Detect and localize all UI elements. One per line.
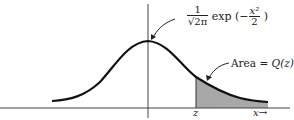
formula-numerator: 1 — [193, 5, 201, 15]
formula-open: (− — [235, 10, 249, 23]
gaussian-curve — [52, 41, 268, 102]
area-label: Area = Q(z) — [231, 57, 294, 69]
formula-close: ) — [264, 10, 268, 23]
x-axis-label: x→ — [253, 107, 267, 118]
formula-denominator: √2π — [187, 15, 208, 27]
formula-arrow — [153, 19, 175, 38]
shaded-tail-area — [196, 77, 268, 108]
area-label-value: Q(z) — [272, 57, 294, 69]
density-formula: 1 √2π exp (− x² 2 ) — [187, 5, 268, 27]
area-arrow — [209, 63, 229, 78]
exponent-denominator: 2 — [250, 17, 258, 27]
formula-arrowhead-icon — [151, 34, 156, 40]
formula-fraction: 1 √2π — [187, 5, 208, 27]
formula-func: exp — [212, 10, 232, 23]
area-arrowhead-icon — [206, 75, 212, 81]
exponent-fraction: x² 2 — [249, 6, 261, 27]
exponent-numerator: x² — [249, 6, 261, 17]
area-label-prefix: Area = — [231, 57, 272, 69]
z-label: z — [193, 107, 198, 118]
